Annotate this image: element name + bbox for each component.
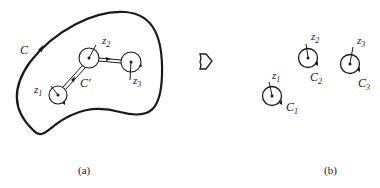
caption-b: (b) [324,164,337,177]
label-c3: C3 [358,76,370,92]
arrow-channel-2-icon [106,57,111,61]
label-z3: z3 [132,74,141,89]
label-c1: C1 [286,100,298,116]
label-c-prime: C′ [80,76,91,90]
label-z2: z2 [101,34,110,49]
label-b-z2: z2 [310,30,319,45]
hollow-right-arrow-icon [200,54,212,69]
label-z1: z1 [33,83,42,98]
label-b-z1: z1 [271,69,280,84]
label-c: C [20,43,29,57]
label-b-z3: z3 [356,34,365,49]
caption-a: (a) [78,164,91,177]
outer-contour-c [17,12,162,134]
label-c2: C2 [310,70,322,86]
contour-diagram: C z1 z2 z3 C′ z1 z2 z3 C1 C2 C3 (a) (b) [0,0,380,188]
